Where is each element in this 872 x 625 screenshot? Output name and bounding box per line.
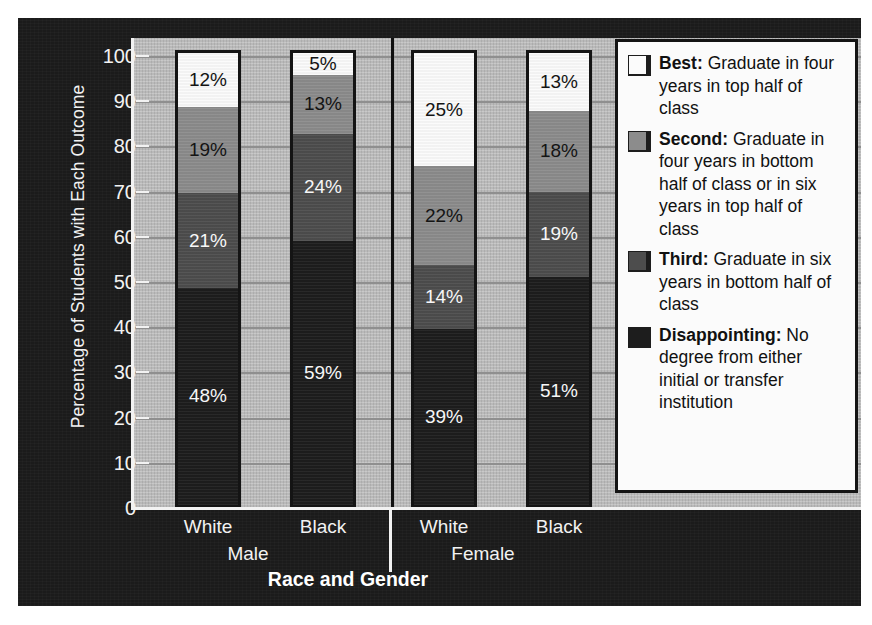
legend-swatch-best: [628, 55, 651, 76]
y-axis-tick-mark: [136, 417, 149, 419]
bar-segment-label: 19%: [189, 139, 227, 161]
group-divider-tail: [389, 510, 392, 572]
bar-segment-label: 22%: [425, 205, 463, 227]
chart-legend: Best: Graduate in four years in top half…: [615, 39, 858, 493]
bar-segment-label: 39%: [425, 406, 463, 428]
legend-swatch-second: [628, 131, 651, 152]
y-axis-tick-label: 10: [40, 451, 136, 474]
y-axis-tick-label: 20: [40, 406, 136, 429]
y-axis-tick-mark: [136, 371, 149, 373]
legend-item-term: Disappointing:: [659, 325, 781, 345]
bar-segment-label: 59%: [304, 362, 342, 384]
bar-segment-label: 48%: [189, 385, 227, 407]
y-axis-tick-mark: [136, 100, 149, 102]
bar-segment-third[interactable]: 19%: [529, 192, 589, 277]
x-axis-group-label: Male: [227, 543, 268, 565]
chart-figure: Percentage of Students with Each Outcome…: [18, 18, 861, 606]
y-axis-tick-mark: [136, 145, 149, 147]
bar-segment-third[interactable]: 24%: [293, 134, 353, 241]
legend-item-text: Second: Graduate in four years in bottom…: [659, 128, 844, 241]
legend-item-term: Third:: [659, 249, 709, 269]
y-axis-tick-mark: [136, 326, 149, 328]
stacked-bar[interactable]: 5%13%24%59%: [290, 50, 356, 508]
y-axis-tick-mark: [136, 462, 149, 464]
x-axis-title: Race and Gender: [18, 568, 678, 591]
bar-segment-best[interactable]: 12%: [178, 53, 238, 107]
y-axis-tick-mark: [136, 281, 149, 283]
bar-segment-best[interactable]: 25%: [414, 53, 474, 166]
group-divider: [391, 38, 394, 508]
bar-segment-label: 13%: [304, 93, 342, 115]
y-axis-tick-label: 60: [40, 225, 136, 248]
y-axis-tick-mark: [136, 55, 149, 57]
bar-segment-label: 14%: [425, 286, 463, 308]
bar-segment-third[interactable]: 14%: [414, 265, 474, 328]
bar-segment-second[interactable]: 13%: [293, 75, 353, 133]
y-axis-spine: [131, 38, 134, 510]
x-axis-tick-label: White: [420, 516, 469, 538]
bar-segment-disappointing[interactable]: 39%: [414, 329, 474, 505]
bar-segment-label: 5%: [309, 53, 336, 75]
legend-item[interactable]: Second: Graduate in four years in bottom…: [628, 128, 844, 241]
x-axis-tick-label: White: [184, 516, 233, 538]
bar-segment-best[interactable]: 13%: [529, 53, 589, 111]
legend-item-term: Best:: [659, 53, 703, 73]
legend-item-term: Second:: [659, 129, 728, 149]
bar-segment-label: 13%: [540, 71, 578, 93]
y-axis-tick-label: 40: [40, 316, 136, 339]
bar-segment-third[interactable]: 21%: [178, 193, 238, 288]
bar-segment-disappointing[interactable]: 48%: [178, 288, 238, 505]
bar-segment-label: 24%: [304, 176, 342, 198]
legend-swatch-disappointing: [628, 327, 651, 348]
bar-segment-second[interactable]: 18%: [529, 111, 589, 192]
legend-swatch-third: [628, 251, 651, 272]
y-axis-tick-label: 70: [40, 180, 136, 203]
bar-segment-disappointing[interactable]: 59%: [293, 241, 353, 505]
y-axis-tick-label: 30: [40, 361, 136, 384]
legend-item[interactable]: Third: Graduate in six years in bottom h…: [628, 248, 844, 316]
legend-item-text: Disappointing: No degree from either ini…: [659, 324, 844, 414]
y-axis-tick-label: 80: [40, 135, 136, 158]
bar-segment-label: 19%: [540, 223, 578, 245]
bar-segment-best[interactable]: 5%: [293, 53, 353, 75]
stacked-bar[interactable]: 25%22%14%39%: [411, 50, 477, 508]
y-axis-tick-label: 0: [40, 497, 136, 520]
y-axis-tick-mark: [136, 236, 149, 238]
y-axis-tick-mark: [136, 191, 149, 193]
legend-item[interactable]: Disappointing: No degree from either ini…: [628, 324, 844, 414]
stacked-bar[interactable]: 13%18%19%51%: [526, 50, 592, 508]
bar-segment-second[interactable]: 22%: [414, 166, 474, 265]
stacked-bar[interactable]: 12%19%21%48%: [175, 50, 241, 508]
y-axis-tick-label: 90: [40, 90, 136, 113]
bar-segment-label: 12%: [189, 69, 227, 91]
bar-segment-label: 18%: [540, 140, 578, 162]
legend-item-text: Best: Graduate in four years in top half…: [659, 52, 844, 120]
y-axis-ticks: 1009080706050403020100: [36, 18, 136, 606]
bar-segment-disappointing[interactable]: 51%: [529, 277, 589, 505]
bar-segment-label: 25%: [425, 99, 463, 121]
y-axis-tick-label: 100: [40, 45, 136, 68]
x-axis-spine: [131, 507, 861, 510]
x-axis-tick-label: Black: [300, 516, 346, 538]
bar-segment-second[interactable]: 19%: [178, 107, 238, 193]
y-axis-tick-label: 50: [40, 271, 136, 294]
legend-item-text: Third: Graduate in six years in bottom h…: [659, 248, 844, 316]
bar-segment-label: 51%: [540, 380, 578, 402]
x-axis-group-label: Female: [451, 543, 514, 565]
x-axis-tick-label: Black: [536, 516, 582, 538]
bar-segment-label: 21%: [189, 230, 227, 252]
legend-item[interactable]: Best: Graduate in four years in top half…: [628, 52, 844, 120]
